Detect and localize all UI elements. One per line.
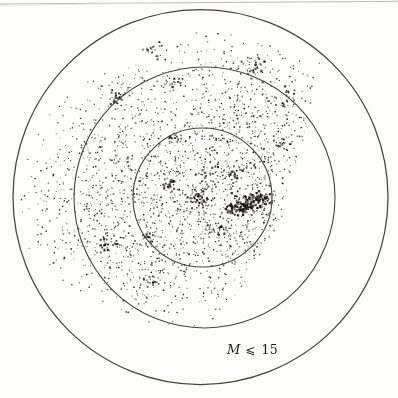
magnitude-limit-label: M⩽15 bbox=[227, 341, 278, 359]
magnitude-value: 15 bbox=[261, 342, 278, 357]
galaxy-scatter-canvas bbox=[0, 0, 398, 398]
galaxy-distribution-figure: M⩽15 bbox=[0, 0, 398, 398]
less-equal-sign: ⩽ bbox=[245, 343, 255, 357]
magnitude-variable: M bbox=[227, 342, 240, 357]
